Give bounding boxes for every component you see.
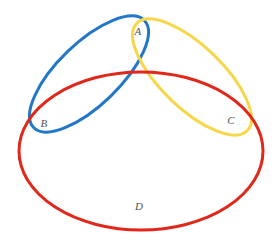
venn-diagram-svg: A B C D <box>0 0 277 245</box>
region-label-d: D <box>134 200 143 212</box>
region-label-a: A <box>134 25 142 37</box>
region-label-b: B <box>41 117 48 129</box>
venn-diagram-canvas: A B C D <box>0 0 277 245</box>
ellipse-set-b[interactable] <box>12 0 166 150</box>
region-label-c: C <box>227 114 235 126</box>
